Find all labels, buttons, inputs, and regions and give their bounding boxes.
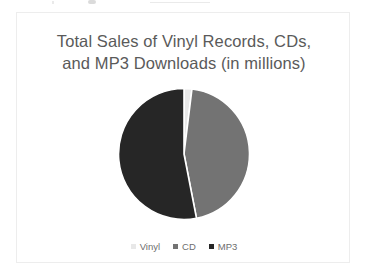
chart-card: Total Sales of Vinyl Records, CDs, and M… xyxy=(16,12,350,263)
legend-item-mp3[interactable]: MP3 xyxy=(209,241,238,252)
scan-line xyxy=(150,2,210,3)
scan-speck-center xyxy=(88,0,96,4)
legend-label-vinyl: Vinyl xyxy=(140,241,160,252)
chart-title: Total Sales of Vinyl Records, CDs, and M… xyxy=(17,30,351,74)
chart-legend: Vinyl CD MP3 xyxy=(17,241,351,252)
chart-title-line-1: Total Sales of Vinyl Records, CDs, xyxy=(17,30,351,52)
legend-swatch-mp3-icon xyxy=(209,244,214,249)
legend-swatch-vinyl-icon xyxy=(131,244,136,249)
legend-label-cd: CD xyxy=(182,241,196,252)
pie-chart-svg xyxy=(118,88,250,220)
legend-item-cd[interactable]: CD xyxy=(173,241,196,252)
legend-label-mp3: MP3 xyxy=(218,241,238,252)
pie-slice-group xyxy=(119,89,250,220)
scan-speck-left xyxy=(52,1,54,4)
legend-swatch-cd-icon xyxy=(173,244,178,249)
legend-item-vinyl[interactable]: Vinyl xyxy=(131,241,160,252)
scan-artifact xyxy=(0,0,365,7)
pie-chart xyxy=(118,88,250,220)
chart-title-line-2: and MP3 Downloads (in millions) xyxy=(17,52,351,74)
pie-slice-cd[interactable] xyxy=(184,89,250,218)
